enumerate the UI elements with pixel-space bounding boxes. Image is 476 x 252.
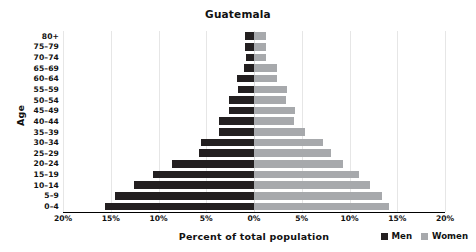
pyramid-row: [63, 95, 445, 106]
x-axis-line: [63, 212, 445, 213]
legend-item-women: Women: [421, 231, 468, 241]
chart-legend: Men Women: [381, 231, 468, 241]
bar-women-2529: [254, 149, 331, 157]
bar-men-80+: [245, 32, 254, 40]
bar-men-3034: [201, 139, 254, 147]
age-tick-label: 65–69: [3, 64, 59, 73]
pyramid-row: [63, 201, 445, 212]
bar-women-4044: [254, 117, 294, 125]
age-tick-label: 60–64: [3, 74, 59, 83]
bar-men-4549: [229, 107, 254, 115]
bar-women-80+: [254, 32, 266, 40]
x-tick-label: 20%: [425, 214, 465, 223]
legend-label-men: Men: [392, 231, 413, 241]
pyramid-row: [63, 127, 445, 138]
age-tick-label: 50–54: [3, 96, 59, 105]
pyramid-row: [63, 42, 445, 53]
bar-women-7579: [254, 43, 266, 51]
chart-title: Guatemala: [0, 8, 476, 20]
pyramid-row: [63, 148, 445, 159]
bar-men-6064: [237, 75, 254, 83]
bar-men-6569: [244, 64, 254, 72]
pyramid-row: [63, 74, 445, 85]
bar-men-4044: [219, 117, 254, 125]
bar-women-7074: [254, 54, 266, 62]
bar-women-4549: [254, 107, 295, 115]
age-tick-label: 10–14: [3, 181, 59, 190]
x-tick-label: 10%: [139, 214, 179, 223]
gridline: [445, 31, 446, 212]
bar-women-5559: [254, 86, 287, 94]
age-tick-label: 15–19: [3, 170, 59, 179]
pyramid-row: [63, 31, 445, 42]
bar-women-59: [254, 192, 382, 200]
plot-area: [63, 31, 445, 212]
x-tick-label: 15%: [91, 214, 131, 223]
bar-men-5559: [238, 86, 254, 94]
y-axis-tick-labels: 80+75–7970–7465–6960–6455–5950–5445–4940…: [0, 31, 59, 212]
bar-men-5054: [229, 96, 254, 104]
age-tick-label: 5–9: [3, 191, 59, 200]
pyramid-row: [63, 116, 445, 127]
age-tick-label: 20–24: [3, 159, 59, 168]
x-tick-label: 0%: [234, 214, 274, 223]
age-tick-label: 80+: [3, 32, 59, 41]
age-tick-label: 45–49: [3, 106, 59, 115]
bar-women-1014: [254, 181, 370, 189]
pyramid-row: [63, 52, 445, 63]
bar-men-7074: [246, 54, 254, 62]
legend-swatch-women-icon: [421, 233, 428, 240]
age-tick-label: 25–29: [3, 149, 59, 158]
bar-women-6064: [254, 75, 277, 83]
age-tick-label: 55–59: [3, 85, 59, 94]
legend-swatch-men-icon: [381, 233, 388, 240]
bar-men-2529: [199, 149, 254, 157]
x-tick-label: 5%: [282, 214, 322, 223]
bar-women-3539: [254, 128, 305, 136]
x-tick-label: 15%: [377, 214, 417, 223]
bar-men-1519: [153, 171, 254, 179]
bar-men-2024: [172, 160, 254, 168]
pyramid-row: [63, 180, 445, 191]
bar-men-59: [115, 192, 254, 200]
bar-men-1014: [134, 181, 254, 189]
age-tick-label: 35–39: [3, 128, 59, 137]
bar-men-3539: [219, 128, 254, 136]
legend-item-men: Men: [381, 231, 413, 241]
pyramid-row: [63, 137, 445, 148]
bar-women-5054: [254, 96, 286, 104]
bar-men-04: [105, 203, 254, 211]
pyramid-row: [63, 191, 445, 202]
pyramid-row: [63, 169, 445, 180]
x-tick-label: 20%: [43, 214, 83, 223]
pyramid-row: [63, 63, 445, 74]
bar-women-6569: [254, 64, 277, 72]
pyramid-row: [63, 106, 445, 117]
age-tick-label: 75–79: [3, 42, 59, 51]
bar-men-7579: [245, 43, 254, 51]
x-tick-label: 10%: [330, 214, 370, 223]
age-tick-label: 0–4: [3, 202, 59, 211]
legend-label-women: Women: [432, 231, 468, 241]
bar-women-3034: [254, 139, 323, 147]
pyramid-row: [63, 159, 445, 170]
bar-women-1519: [254, 171, 359, 179]
bar-women-2024: [254, 160, 343, 168]
age-tick-label: 40–44: [3, 117, 59, 126]
bar-women-04: [254, 203, 389, 211]
age-tick-label: 70–74: [3, 53, 59, 62]
x-tick-label: 5%: [186, 214, 226, 223]
age-tick-label: 30–34: [3, 138, 59, 147]
population-pyramid-chart: Guatemala Age 80+75–7970–7465–6960–6455–…: [0, 0, 476, 252]
x-axis-tick-labels: 20%15%10%5%0%5%10%15%20%: [63, 214, 445, 228]
pyramid-row: [63, 84, 445, 95]
